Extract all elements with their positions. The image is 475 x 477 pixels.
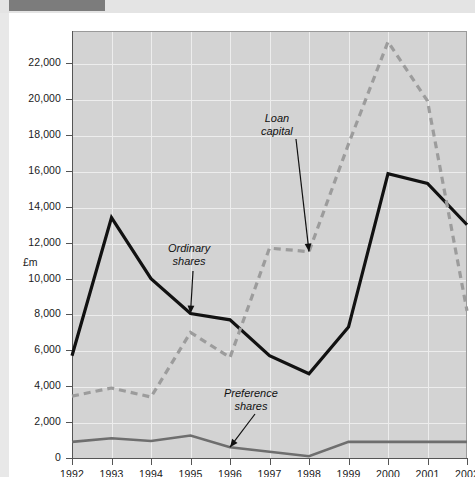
gridline-vertical (112, 32, 113, 458)
y-axis-tick-label: 4,000 (9, 379, 61, 391)
x-axis-tick (191, 459, 192, 465)
y-axis-tick-label: 6,000 (9, 343, 61, 355)
y-axis-tick (66, 99, 72, 100)
chart-figure: 02,0004,0006,0008,00010,00012,00014,0001… (9, 13, 475, 477)
x-axis-tick-label: 2002 (447, 468, 475, 477)
x-axis-tick-label: 1996 (210, 468, 250, 477)
page-top-band-marker (9, 0, 105, 11)
y-axis-tick-label: 12,000 (9, 236, 61, 248)
x-axis-tick (270, 459, 271, 465)
x-axis-tick-label: 1998 (289, 468, 329, 477)
x-axis-tick (151, 459, 152, 465)
annotation-preference-shares-line2: shares (224, 400, 278, 413)
y-axis-tick-label: 14,000 (9, 200, 61, 212)
x-axis-tick (349, 459, 350, 465)
x-axis-tick-label: 2000 (368, 468, 408, 477)
gridline-vertical (349, 32, 350, 458)
x-axis-tick (309, 459, 310, 465)
y-axis-tick-label: 18,000 (9, 128, 61, 140)
y-axis-tick-label: 22,000 (9, 56, 61, 68)
annotation-ordinary-shares-line1: Ordinary (168, 242, 210, 255)
y-axis-tick (66, 350, 72, 351)
x-axis-tick-label: 1993 (92, 468, 132, 477)
x-axis-tick-label: 2001 (408, 468, 448, 477)
annotation-loan-capital-line1: Loan (261, 112, 293, 125)
x-axis-tick (72, 459, 73, 465)
gridline-vertical (428, 32, 429, 458)
x-axis-tick-label: 1992 (52, 468, 92, 477)
x-axis-tick-label: 1999 (329, 468, 369, 477)
x-axis-tick (388, 459, 389, 465)
x-axis-tick-label: 1995 (171, 468, 211, 477)
gridline-vertical (388, 32, 389, 458)
page-root: 02,0004,0006,0008,00010,00012,00014,0001… (0, 0, 475, 477)
y-axis-tick-label: 0 (9, 451, 61, 463)
y-axis-tick (66, 243, 72, 244)
y-axis-tick-label: 8,000 (9, 307, 61, 319)
x-axis-tick-label: 1997 (250, 468, 290, 477)
y-axis-tick-label: 16,000 (9, 164, 61, 176)
y-axis-tick (66, 314, 72, 315)
x-axis-tick (467, 459, 468, 465)
y-axis-tick (66, 279, 72, 280)
gridline-vertical (309, 32, 310, 458)
y-axis-tick (66, 171, 72, 172)
x-axis-tick (428, 459, 429, 465)
y-axis-tick (66, 207, 72, 208)
y-axis-title: £m (23, 256, 38, 268)
y-axis-tick-label: 20,000 (9, 92, 61, 104)
x-axis-tick-label: 1994 (131, 468, 171, 477)
y-axis-tick-label: 2,000 (9, 415, 61, 427)
x-axis-tick (112, 459, 113, 465)
annotation-ordinary-shares-line2: shares (168, 255, 210, 268)
y-axis-tick-label: 10,000 (9, 272, 61, 284)
page-left-margin (0, 13, 9, 477)
x-axis-tick (230, 459, 231, 465)
gridline-vertical (151, 32, 152, 458)
annotation-loan-capital-line2: capital (261, 125, 293, 138)
page-top-band (0, 0, 475, 13)
y-axis-tick (66, 135, 72, 136)
annotation-ordinary-shares: Ordinary shares (168, 242, 210, 268)
annotation-preference-shares-line1: Preference (224, 387, 278, 400)
y-axis-line (72, 31, 73, 459)
annotation-preference-shares: Preference shares (224, 387, 278, 413)
y-axis-tick (66, 63, 72, 64)
y-axis-tick (66, 422, 72, 423)
y-axis-tick (66, 386, 72, 387)
annotation-loan-capital: Loan capital (261, 112, 293, 138)
